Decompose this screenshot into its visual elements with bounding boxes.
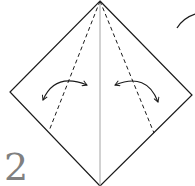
right-valley-fold-line [100,1,154,133]
right-fold-arrow-icon [115,81,158,102]
partial-next-step-curve [177,14,195,28]
left-fold-arrow-icon [43,81,87,100]
origami-diagram [0,0,195,186]
step-number: 2 [4,148,28,186]
left-valley-fold-line [49,1,100,131]
paper-square-outline [10,1,192,186]
